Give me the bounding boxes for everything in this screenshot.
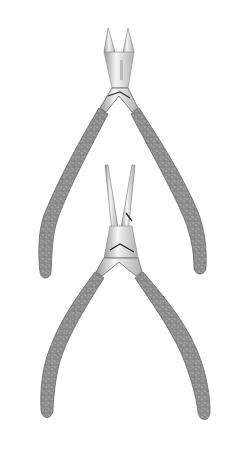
pliers-handle-left (41, 272, 104, 418)
pliers-shank (96, 258, 142, 276)
nipper-head (104, 52, 134, 88)
engraving (120, 60, 123, 80)
nipper-handle-left (39, 108, 108, 278)
nipper-shank (100, 88, 138, 112)
pliers-jaw-left (105, 165, 118, 232)
product-image (0, 0, 241, 449)
tools-illustration (0, 0, 241, 449)
nipper-handle-right (131, 108, 206, 274)
pliers-handle-right (135, 272, 210, 420)
pliers-joint (104, 226, 138, 258)
pliers-jaw-right (121, 165, 135, 232)
